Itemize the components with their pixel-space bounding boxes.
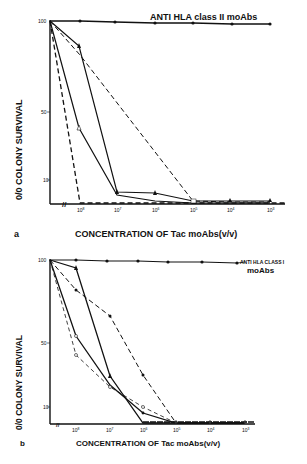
svg-text:107: 107 bbox=[114, 207, 122, 213]
series-dashed-long bbox=[50, 21, 270, 202]
svg-text:105: 105 bbox=[190, 207, 198, 213]
x-ticks-a: 108 107 106 105 104 103 bbox=[77, 207, 275, 213]
y-tick-100: 100 bbox=[38, 18, 47, 24]
panel-b-letter: b bbox=[20, 439, 25, 448]
svg-text:108: 108 bbox=[77, 207, 85, 213]
panel-a-ylabel: 0/0 COLONY SURVIVAL bbox=[14, 99, 24, 200]
svg-text:107: 107 bbox=[106, 427, 114, 433]
y-tick-100: 100 bbox=[38, 257, 47, 263]
axis-break: // bbox=[62, 200, 67, 209]
svg-text:103: 103 bbox=[242, 427, 250, 433]
panel-b-xlabel: CONCENTRATION OF Tac moAbs(v/v) bbox=[76, 439, 220, 448]
x-ticks-b: 108 107 106 105 104 103 bbox=[72, 427, 250, 433]
svg-text:104: 104 bbox=[207, 427, 215, 433]
panel-b-series-label-line1: ANTI HLA CLASS I bbox=[240, 259, 285, 265]
panel-b-ylabel: 0/0 COLONY SURVIVAL bbox=[14, 335, 24, 430]
svg-text:103: 103 bbox=[267, 207, 275, 213]
y-tick-50: 50 bbox=[41, 340, 47, 346]
series-solid-open-circle bbox=[50, 260, 245, 423]
svg-text:106: 106 bbox=[152, 207, 160, 213]
series-hla-class-i bbox=[50, 260, 237, 263]
figure: // 100 50 10 108 107 106 105 104 103 bbox=[0, 0, 307, 464]
svg-text:108: 108 bbox=[72, 427, 80, 433]
panel-b-series-label-line2: moAbs bbox=[247, 266, 275, 275]
panel-a-letter: a bbox=[14, 229, 20, 239]
panel-b: // 100 50 10 108 107 106 105 104 103 bbox=[14, 257, 285, 448]
panel-a: // 100 50 10 108 107 106 105 104 103 bbox=[14, 12, 285, 239]
axis-break: // bbox=[56, 422, 60, 428]
series-dashed-steep bbox=[50, 21, 285, 203]
panel-a-series-label: ANTI HLA class II moAbs bbox=[150, 12, 257, 22]
svg-text:104: 104 bbox=[227, 207, 235, 213]
panel-a-xlabel: CONCENTRATION OF Tac moAbs(v/v) bbox=[75, 229, 237, 239]
svg-text:106: 106 bbox=[140, 427, 148, 433]
series-open-triangle bbox=[50, 21, 270, 203]
series-solid-triangle bbox=[50, 21, 270, 201]
svg-text:105: 105 bbox=[173, 427, 181, 433]
y-tick-50: 50 bbox=[41, 109, 47, 115]
